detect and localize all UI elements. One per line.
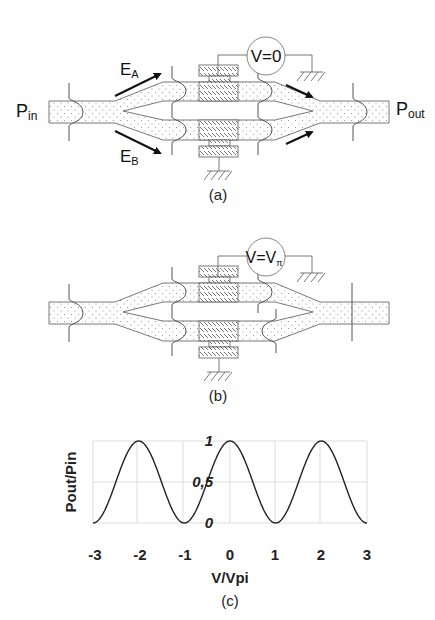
arm-gap-a	[123, 101, 313, 120]
ground-bottom-a	[204, 157, 232, 180]
arm-gap-b	[123, 302, 313, 321]
caption-a: (a)	[209, 186, 227, 203]
svg-text:-1: -1	[178, 546, 191, 563]
caption-c: (c)	[221, 592, 239, 609]
svg-text:-2: -2	[133, 546, 146, 563]
x-axis-label: V/Vpi	[211, 569, 249, 586]
arm-a-field-label: EA	[120, 60, 139, 80]
svg-text:-3: -3	[88, 546, 101, 563]
diagram-b: V=Vπ (b)	[49, 238, 389, 404]
chart-grid	[93, 441, 367, 523]
svg-text:0: 0	[226, 546, 234, 563]
ground-bottom-b	[204, 358, 232, 381]
input-power-label: Pin	[16, 101, 37, 123]
arm-b-field-label: EB	[120, 147, 139, 167]
ground-top-a	[297, 72, 325, 81]
svg-text:0,5: 0,5	[192, 473, 214, 490]
svg-text:1: 1	[205, 432, 213, 449]
svg-text:1: 1	[271, 546, 279, 563]
output-power-label: Pout	[396, 99, 425, 121]
electrode-top-b	[199, 266, 238, 302]
electrode-bottom-b	[199, 321, 238, 358]
svg-text:2: 2	[317, 546, 325, 563]
electrode-top-a	[199, 65, 238, 101]
voltage-label-a: V=0	[251, 47, 282, 66]
y-axis-label: Pout/Pin	[62, 452, 79, 513]
transfer-chart: 0 0,5 1 -3 -2 -1 0 1 2 3 V/Vpi Pout/Pin …	[62, 432, 371, 609]
svg-text:3: 3	[363, 546, 371, 563]
svg-text:0: 0	[205, 514, 214, 531]
electrode-bottom-a	[199, 120, 238, 157]
x-tick-labels: -3 -2 -1 0 1 2 3	[88, 546, 371, 563]
ground-top-b	[297, 273, 325, 282]
caption-b: (b)	[209, 387, 227, 404]
mach-zehnder-figure: Pin Pout EA EB V=0 (a) V=Vπ (b)	[0, 0, 435, 620]
y-tick-labels: 0 0,5 1	[192, 432, 214, 531]
diagram-a: Pin Pout EA EB V=0 (a)	[16, 37, 425, 203]
